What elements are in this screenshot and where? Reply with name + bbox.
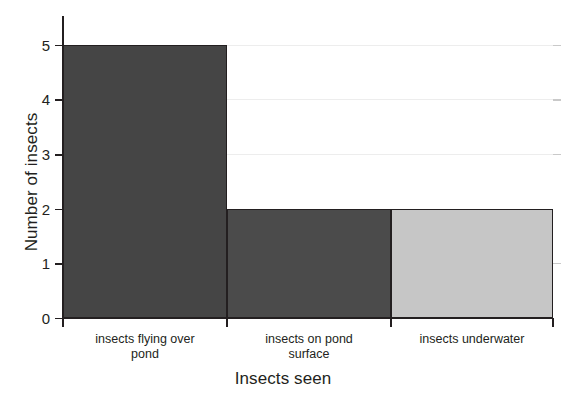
y-tick-mark-2 [55,209,63,211]
bar-insects-on-pond-surface[interactable] [227,209,391,319]
y-tick-label-0: 0 [10,309,50,326]
x-tick-mark-3 [552,318,554,327]
right-tick-5 [553,45,561,46]
y-tick-label-2: 2 [10,200,50,217]
x-tick-label-insects-flying-over-pond: insects flying over pond [63,332,227,362]
x-tick-label-line2: surface [227,347,391,362]
right-tick-1 [553,263,561,264]
x-tick-label-line1: insects on pond [227,332,391,347]
x-axis-line [62,318,553,320]
y-tick-label-3: 3 [10,146,50,163]
y-tick-label-4: 4 [10,91,50,108]
y-tick-mark-4 [55,99,63,101]
y-tick-label-5: 5 [10,36,50,53]
right-tick-3 [553,154,561,155]
right-tick-4 [553,99,561,100]
bar-chart: Number of insects 5 4 3 2 1 0 [0,0,566,398]
y-tick-mark-3 [55,154,63,156]
x-tick-label-insects-underwater: insects underwater [391,332,553,347]
bar-insects-flying-over-pond[interactable] [63,45,227,319]
x-tick-label-insects-on-pond-surface: insects on pond surface [227,332,391,362]
x-axis-title: Insects seen [0,369,566,389]
x-tick-mark-0 [62,318,64,327]
x-tick-label-line2: pond [63,347,227,362]
y-axis-line [62,16,64,319]
x-tick-label-line1: insects flying over [63,332,227,347]
x-tick-mark-1 [226,318,228,327]
x-tick-mark-2 [390,318,392,327]
y-tick-mark-1 [55,263,63,265]
x-tick-label-line1: insects underwater [391,332,553,347]
y-tick-label-1: 1 [10,255,50,272]
bar-insects-underwater[interactable] [391,209,553,319]
y-tick-mark-5 [55,45,63,47]
